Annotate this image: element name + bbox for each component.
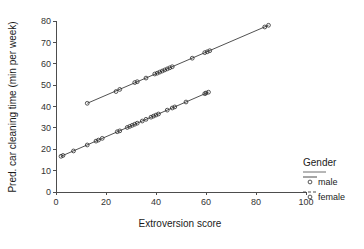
y-tick-label: 80 xyxy=(41,16,51,26)
chart-background xyxy=(0,0,364,249)
y-tick-label: 10 xyxy=(41,166,51,176)
y-tick-label: 60 xyxy=(41,59,51,69)
y-tick-label: 50 xyxy=(41,80,51,90)
legend-label-female: female xyxy=(318,192,345,202)
x-tick-label: 60 xyxy=(201,197,211,207)
y-tick-label: 40 xyxy=(41,102,51,112)
scatter-plot-figure: 01020304050607080 020406080100 Pred. car… xyxy=(0,0,364,249)
y-tick-label: 20 xyxy=(41,144,51,154)
chart-canvas: 01020304050607080 020406080100 Pred. car… xyxy=(0,0,364,249)
x-tick-label: 80 xyxy=(251,197,261,207)
legend-label-male: male xyxy=(318,177,338,187)
y-axis-title: Pred. car cleaning time (min per week) xyxy=(7,21,18,192)
x-axis-title: Extroversion score xyxy=(139,218,222,229)
x-tick-label: 40 xyxy=(151,197,161,207)
y-tick-label: 0 xyxy=(46,187,51,197)
legend-title: Gender xyxy=(303,157,337,168)
x-tick-label: 20 xyxy=(101,197,111,207)
y-tick-label: 70 xyxy=(41,38,51,48)
x-tick-label: 0 xyxy=(53,197,58,207)
y-tick-label: 30 xyxy=(41,123,51,133)
